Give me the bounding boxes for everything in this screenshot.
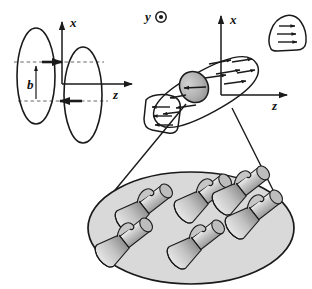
y-axis-label: y: [145, 10, 151, 23]
left-axis-label-x: x: [70, 16, 77, 29]
nucleus-right: [64, 47, 102, 143]
left-panel-axes: [62, 22, 132, 84]
right-axis-label-z: z: [272, 99, 277, 112]
core-flow-arrow: [184, 87, 206, 88]
diagram-svg: [0, 0, 312, 289]
vorticity-ellipse: [88, 172, 294, 284]
flow-arrows-upper: [205, 59, 255, 84]
right-axis-label-x: x: [230, 13, 237, 26]
vorticity-field-panel: [88, 158, 294, 284]
spectator-right: [269, 15, 306, 51]
left-axis-label-z: z: [113, 88, 118, 101]
right-panel-group: [144, 15, 306, 138]
y-axis-out-of-page-icon: [156, 12, 166, 22]
impact-parameter-label: b: [27, 78, 34, 91]
figure-canvas: x z b y x z: [0, 0, 312, 289]
